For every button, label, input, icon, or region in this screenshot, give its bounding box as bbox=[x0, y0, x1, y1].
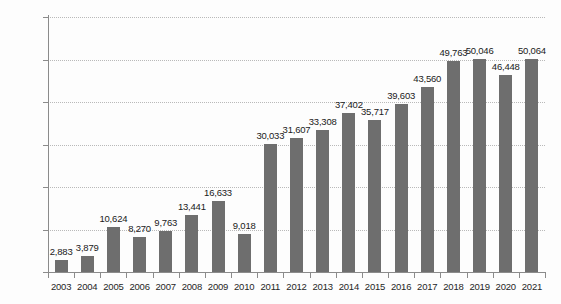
bar-2015[interactable] bbox=[368, 120, 381, 272]
value-label-2015: 35,717 bbox=[353, 106, 397, 117]
x-tick-14 bbox=[414, 272, 415, 278]
bar-2012[interactable] bbox=[290, 138, 303, 272]
x-tick-5 bbox=[179, 272, 180, 278]
bar-2017[interactable] bbox=[421, 87, 434, 272]
bar-2021[interactable] bbox=[525, 59, 538, 272]
value-label-2019: 50,046 bbox=[458, 45, 502, 56]
value-label-2008: 13,441 bbox=[170, 201, 214, 212]
x-tick-10 bbox=[310, 272, 311, 278]
x-axis-line bbox=[48, 272, 546, 273]
bar-2009[interactable] bbox=[212, 201, 225, 272]
bar-2004[interactable] bbox=[81, 256, 94, 272]
bar-2014[interactable] bbox=[342, 113, 355, 272]
x-axis-label-2021: 2021 bbox=[517, 281, 547, 292]
x-tick-17 bbox=[493, 272, 494, 278]
value-label-2020: 46,448 bbox=[484, 61, 528, 72]
value-label-2021: 50,064 bbox=[510, 45, 554, 56]
value-label-2016: 39,603 bbox=[379, 90, 423, 101]
x-tick-15 bbox=[440, 272, 441, 278]
value-label-2010: 9,018 bbox=[222, 220, 266, 231]
bar-2006[interactable] bbox=[133, 237, 146, 272]
bar-2019[interactable] bbox=[473, 59, 486, 272]
value-label-2004: 3,879 bbox=[65, 242, 109, 253]
value-label-2007: 9,763 bbox=[144, 217, 188, 228]
bar-2011[interactable] bbox=[264, 144, 277, 272]
x-tick-3 bbox=[126, 272, 127, 278]
x-tick-7 bbox=[231, 272, 232, 278]
x-tick-8 bbox=[257, 272, 258, 278]
x-tick-0 bbox=[48, 272, 49, 278]
x-tick-1 bbox=[74, 272, 75, 278]
x-tick-4 bbox=[153, 272, 154, 278]
bar-2013[interactable] bbox=[316, 130, 329, 272]
bar-2003[interactable] bbox=[55, 260, 68, 272]
value-label-2013: 33,308 bbox=[301, 116, 345, 127]
value-label-2017: 43,560 bbox=[405, 73, 449, 84]
x-tick-6 bbox=[205, 272, 206, 278]
x-tick-16 bbox=[467, 272, 468, 278]
bar-2010[interactable] bbox=[238, 234, 251, 272]
x-tick-12 bbox=[362, 272, 363, 278]
x-tick-18 bbox=[519, 272, 520, 278]
bar-chart: 010,00020,00030,00040,00050,00060,000 2,… bbox=[0, 0, 561, 304]
bar-2016[interactable] bbox=[395, 104, 408, 272]
value-label-2009: 16,633 bbox=[196, 187, 240, 198]
x-tick-19 bbox=[545, 272, 546, 278]
x-tick-9 bbox=[283, 272, 284, 278]
x-tick-13 bbox=[388, 272, 389, 278]
x-tick-11 bbox=[336, 272, 337, 278]
x-tick-2 bbox=[100, 272, 101, 278]
bar-2018[interactable] bbox=[447, 61, 460, 272]
bar-2007[interactable] bbox=[159, 231, 172, 272]
bar-2020[interactable] bbox=[499, 75, 512, 272]
